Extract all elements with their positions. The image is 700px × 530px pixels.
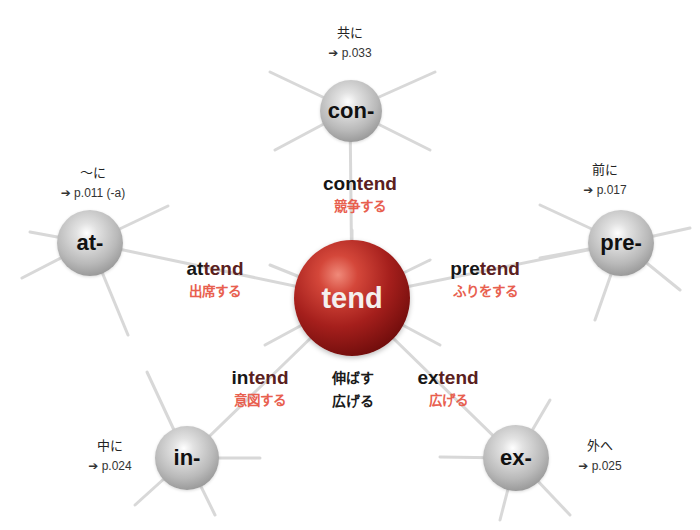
prefix-note-ex: 外へ ➔ p.025 xyxy=(560,436,640,476)
prefix-label: in- xyxy=(174,445,201,471)
prefix-note-pre: 前に ➔ p.017 xyxy=(565,160,645,200)
root-meaning: 伸ばす 広げる xyxy=(318,367,388,413)
prefix-meaning: 外へ xyxy=(560,436,640,456)
derived-word-pretend: pretend ふりをする xyxy=(430,257,540,303)
word-meaning: 競争する xyxy=(290,195,430,218)
word-root: tend xyxy=(248,367,288,388)
word-prefix: in xyxy=(232,367,249,388)
word-root: tend xyxy=(357,173,397,194)
prefix-meaning: 共に xyxy=(310,23,390,43)
prefix-meaning: ～に xyxy=(38,163,148,183)
word-root: tend xyxy=(480,258,520,279)
page-reference: ➔ p.017 xyxy=(565,180,645,200)
root-meaning-line1: 伸ばす xyxy=(318,367,388,390)
word-meaning: ふりをする xyxy=(430,280,540,303)
prefix-note-in: 中に ➔ p.024 xyxy=(70,436,150,476)
prefix-sphere-in: in- xyxy=(155,426,219,490)
prefix-note-at: ～に ➔ p.011 (-a) xyxy=(38,163,148,203)
prefix-note-con: 共に ➔ p.033 xyxy=(310,23,390,63)
word-prefix: con xyxy=(323,173,357,194)
prefix-sphere-con: con- xyxy=(320,80,382,142)
derived-word-contend: contend 競争する xyxy=(290,172,430,218)
page-reference: ➔ p.024 xyxy=(70,456,150,476)
prefix-sphere-at: at- xyxy=(57,210,123,276)
page-reference: ➔ p.011 (-a) xyxy=(38,183,148,203)
word-meaning: 意図する xyxy=(210,389,310,412)
prefix-label: pre- xyxy=(600,230,642,256)
prefix-label: at- xyxy=(77,230,104,256)
page-reference: ➔ p.025 xyxy=(560,456,640,476)
word-root-diagram: 共に ➔ p.033 con- contend 競争する ～に ➔ p.011 … xyxy=(0,0,700,530)
prefix-meaning: 前に xyxy=(565,160,645,180)
word-prefix: pre xyxy=(450,258,480,279)
word-meaning: 広げる xyxy=(398,389,498,412)
derived-word-extend: extend 広げる xyxy=(398,366,498,412)
prefix-label: ex- xyxy=(500,445,532,471)
root-label: tend xyxy=(321,282,382,315)
derived-word-intend: intend 意図する xyxy=(210,366,310,412)
word-prefix: ex xyxy=(417,367,438,388)
word-root: tend xyxy=(203,258,243,279)
word-prefix: at xyxy=(186,258,203,279)
prefix-sphere-ex: ex- xyxy=(483,425,549,491)
word-root: tend xyxy=(439,367,479,388)
page-reference: ➔ p.033 xyxy=(310,43,390,63)
word-meaning: 出席する xyxy=(165,280,265,303)
prefix-label: con- xyxy=(328,98,374,124)
root-sphere-tend: tend xyxy=(294,240,410,356)
root-meaning-line2: 広げる xyxy=(318,390,388,413)
prefix-meaning: 中に xyxy=(70,436,150,456)
derived-word-attend: attend 出席する xyxy=(165,257,265,303)
prefix-sphere-pre: pre- xyxy=(588,210,654,276)
